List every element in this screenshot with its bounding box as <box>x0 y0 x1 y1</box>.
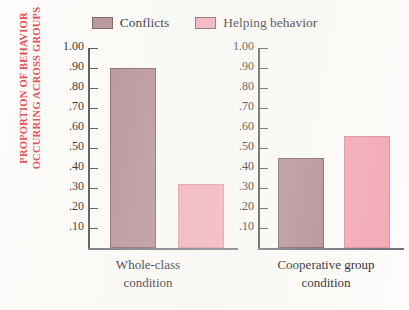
y-axis-tick-label: .10 <box>69 220 84 232</box>
y-axis-tick-label: .70 <box>239 100 254 112</box>
y-axis-tick-label: .80 <box>239 80 254 92</box>
y-axis-tick-label: .20 <box>239 200 254 212</box>
legend-entry-conflicts: Conflicts <box>92 16 170 30</box>
category-label-cooperative-group: Cooperative group condition <box>258 256 394 291</box>
y-axis-title-line-2: OCCURRING ACROSS GROUPS <box>31 7 44 170</box>
y-axis-tick-label: .50 <box>69 140 84 152</box>
bar-group-cooperative-group <box>258 44 394 249</box>
legend-entry-helping-behavior: Helping behavior <box>195 16 317 30</box>
bar-chart-figure: Conflicts Helping behavior PROPORTION OF… <box>0 0 409 310</box>
legend-label-conflicts: Conflicts <box>120 16 170 30</box>
y-axis-tick-label: 1.00 <box>63 40 84 52</box>
category-label-line-1: Whole-class <box>88 256 208 274</box>
category-label-line-2: condition <box>258 274 394 292</box>
bar-conflicts <box>110 68 156 248</box>
y-axis-tick-label: .60 <box>69 120 84 132</box>
category-label-line-1: Cooperative group <box>258 256 394 274</box>
legend-swatch-icon-helping-behavior <box>195 17 216 29</box>
legend-swatch-icon-conflicts <box>92 17 113 29</box>
y-axis-tick-label: .90 <box>239 60 254 72</box>
y-axis-tick-label: .70 <box>69 100 84 112</box>
chart-legend: Conflicts Helping behavior <box>0 12 409 34</box>
y-axis-tick-label: .80 <box>69 80 84 92</box>
x-axis-baseline <box>258 248 404 250</box>
plot-area-cooperative-group: 1.00.90.80.70.60.50.40.30.20.10 <box>258 44 394 249</box>
y-axis-tick-label: .30 <box>239 180 254 192</box>
bar-conflicts <box>278 158 324 248</box>
y-axis-title: PROPORTION OF BEHAVIOR OCCURRING ACROSS … <box>15 0 47 183</box>
y-axis-tick-label: .90 <box>69 60 84 72</box>
y-axis-tick-label: 1.00 <box>233 40 254 52</box>
plot-area-whole-class: 1.00.90.80.70.60.50.40.30.20.10 <box>88 44 208 249</box>
bar-helping-behavior <box>344 136 390 248</box>
category-label-line-2: condition <box>88 274 208 292</box>
chart-panel-whole-class: 1.00.90.80.70.60.50.40.30.20.10 Whole-cl… <box>48 44 208 296</box>
bar-group-whole-class <box>88 44 208 249</box>
y-axis-tick-label: .60 <box>239 120 254 132</box>
y-axis-tick-label: .40 <box>239 160 254 172</box>
y-axis-title-line-1: PROPORTION OF BEHAVIOR <box>18 12 31 164</box>
category-label-whole-class: Whole-class condition <box>88 256 208 291</box>
legend-label-helping-behavior: Helping behavior <box>223 16 317 30</box>
chart-panel-cooperative-group: 1.00.90.80.70.60.50.40.30.20.10 Cooperat… <box>218 44 394 296</box>
y-axis-tick-label: .30 <box>69 180 84 192</box>
y-axis-tick-label: .20 <box>69 200 84 212</box>
y-axis-tick-label: .40 <box>69 160 84 172</box>
y-axis-tick-label: .50 <box>239 140 254 152</box>
y-axis-tick-label: .10 <box>239 220 254 232</box>
x-axis-baseline <box>88 248 238 250</box>
